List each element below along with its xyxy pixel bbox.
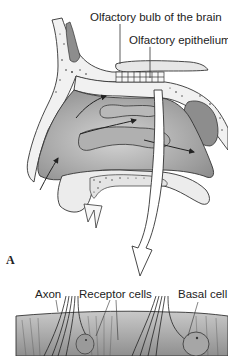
superior-turbinate: [100, 105, 159, 118]
palate-and-lip: [58, 170, 210, 228]
label-olfactory-bulb: Olfactory bulb of the brain: [90, 12, 222, 24]
label-receptor-cells: Receptor cells: [79, 289, 152, 301]
anatomy-illustration: [0, 0, 228, 356]
label-axon: Axon: [35, 289, 61, 301]
basal-cell-body: [183, 332, 209, 356]
teeth: [84, 204, 102, 228]
epithelium-detail: [16, 296, 228, 356]
panel-label: A: [6, 254, 15, 266]
label-basal-cell: Basal cell: [178, 289, 227, 301]
olfactory-anatomy-figure: Olfactory bulb of the brain Olfactory ep…: [0, 0, 228, 356]
olfactory-bulb: [116, 24, 208, 72]
receptor-cell-body: [76, 334, 94, 354]
label-olfactory-epithelium: Olfactory epithelium: [129, 35, 228, 47]
